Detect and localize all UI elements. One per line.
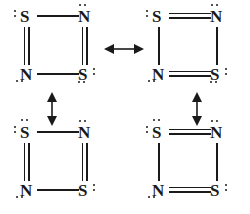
bond-left-double-line-2: [28, 27, 30, 65]
lone-pair-dot: [21, 119, 23, 121]
bond-right-double-line-2: [86, 27, 88, 65]
bond-left-double-line-1: [24, 143, 26, 181]
bond-bottom-double-line-2: [169, 75, 211, 77]
lone-pair-dot: [153, 80, 155, 82]
lone-pair-nitrogen-top-right-top: [79, 4, 86, 6]
lone-pair-dot: [216, 120, 218, 122]
lone-pair-dot: [16, 196, 18, 198]
resonance-structure-bottom-right: S N N S: [138, 118, 242, 206]
atom-nitrogen-top-right: N: [210, 8, 222, 25]
atom-nitrogen-top-right: N: [78, 8, 90, 25]
resonance-arrow-vertical-right: [190, 92, 204, 126]
bond-left-single: [158, 143, 160, 181]
atom-nitrogen-top-right: N: [78, 124, 90, 141]
lone-pair-nitrogen-bottom-left-bottom: [16, 80, 23, 82]
lone-pair-dot: [14, 126, 16, 128]
atom-sulfur-top-left: S: [152, 124, 161, 141]
lone-pair-dot: [211, 4, 213, 6]
atom-sulfur-top-left: S: [20, 8, 29, 25]
lone-pair-nitrogen-top-right-top: [79, 120, 86, 122]
bond-bottom-double-line-2: [169, 191, 211, 193]
lone-pair-dot: [153, 196, 155, 198]
lone-pair-sulfur-bottom-right-right: [93, 68, 95, 75]
lone-pair-sulfur-top-left-left: [146, 126, 148, 133]
lone-pair-dot: [83, 81, 85, 83]
lone-pair-dot: [93, 189, 95, 191]
bond-left-double-line-1: [24, 27, 26, 65]
lone-pair-dot: [93, 184, 95, 186]
lone-pair-sulfur-top-left-left: [146, 10, 148, 17]
bond-bottom-single: [37, 189, 79, 191]
lone-pair-sulfur-bottom-right-bottom: [210, 81, 217, 83]
resonance-structure-top-right: S N N S: [138, 2, 242, 90]
lone-pair-dot: [215, 81, 217, 83]
lone-pair-dot: [84, 120, 86, 122]
lone-pair-sulfur-top-left-left: [14, 126, 16, 133]
bond-right-single: [216, 27, 218, 65]
resonance-arrow-horizontal-top: [104, 42, 144, 56]
bond-top-double-line-1: [169, 129, 211, 131]
lone-pair-dot: [93, 73, 95, 75]
resonance-structure-top-left: S N N S: [6, 2, 110, 90]
atom-nitrogen-top-right: N: [210, 124, 222, 141]
lone-pair-dot: [78, 81, 80, 83]
lone-pair-dot: [225, 73, 227, 75]
lone-pair-dot: [225, 68, 227, 70]
resonance-structure-bottom-left: S N N S: [6, 118, 110, 206]
lone-pair-dot: [21, 80, 23, 82]
lone-pair-dot: [216, 4, 218, 6]
lone-pair-nitrogen-bottom-left-bottom: [16, 196, 23, 198]
lone-pair-dot: [21, 196, 23, 198]
lone-pair-dot: [93, 68, 95, 70]
bond-top-double-line-2: [169, 17, 211, 19]
bond-right-single: [216, 143, 218, 181]
lone-pair-sulfur-bottom-right-right: [225, 184, 227, 191]
bond-bottom-double-line-1: [169, 187, 211, 189]
bond-right-double-line-2: [86, 143, 88, 181]
bond-top-double-line-1: [169, 13, 211, 15]
lone-pair-dot: [146, 15, 148, 17]
lone-pair-dot: [26, 119, 28, 121]
lone-pair-dot: [225, 189, 227, 191]
lone-pair-dot: [14, 131, 16, 133]
bond-right-double-line-1: [82, 27, 84, 65]
lone-pair-dot: [16, 80, 18, 82]
lone-pair-dot: [210, 81, 212, 83]
lone-pair-dot: [146, 126, 148, 128]
bond-left-single: [158, 27, 160, 65]
bond-right-double-line-1: [82, 143, 84, 181]
diagram-canvas: S N N S S: [0, 0, 250, 214]
lone-pair-dot: [148, 80, 150, 82]
lone-pair-dot: [153, 119, 155, 121]
atom-sulfur-top-left: S: [152, 8, 161, 25]
bond-bottom-single: [37, 73, 79, 75]
lone-pair-sulfur-top-left-top: [21, 119, 28, 121]
lone-pair-sulfur-top-left-top: [153, 119, 160, 121]
atom-sulfur-top-left: S: [20, 124, 29, 141]
bond-bottom-double-line-1: [169, 71, 211, 73]
lone-pair-dot: [146, 131, 148, 133]
atom-sulfur-bottom-right: S: [210, 182, 219, 199]
lone-pair-dot: [84, 4, 86, 6]
lone-pair-dot: [79, 120, 81, 122]
lone-pair-sulfur-bottom-right-right: [93, 184, 95, 191]
bond-left-double-line-2: [28, 143, 30, 181]
lone-pair-sulfur-bottom-right-right: [225, 68, 227, 75]
lone-pair-dot: [158, 119, 160, 121]
lone-pair-dot: [225, 184, 227, 186]
bond-top-double-line-2: [169, 133, 211, 135]
lone-pair-nitrogen-bottom-left-bottom: [148, 80, 155, 82]
bond-top-single: [37, 131, 79, 133]
lone-pair-dot: [79, 4, 81, 6]
lone-pair-dot: [14, 15, 16, 17]
lone-pair-nitrogen-bottom-left-bottom: [148, 196, 155, 198]
resonance-arrow-vertical-left: [45, 92, 59, 126]
bond-top-single: [37, 15, 79, 17]
lone-pair-dot: [14, 10, 16, 12]
lone-pair-dot: [211, 120, 213, 122]
lone-pair-dot: [146, 10, 148, 12]
lone-pair-dot: [148, 196, 150, 198]
lone-pair-nitrogen-top-right-top: [211, 4, 218, 6]
atom-sulfur-bottom-right: S: [78, 182, 87, 199]
lone-pair-sulfur-top-left-left: [14, 10, 16, 17]
